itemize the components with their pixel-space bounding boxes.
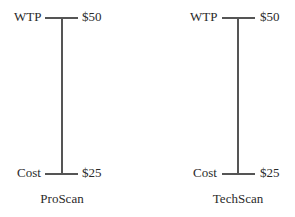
product-name: TechScan bbox=[213, 192, 263, 206]
wtp-tick bbox=[222, 17, 255, 19]
value-range-bar bbox=[237, 17, 239, 174]
wtp-label: WTP bbox=[190, 10, 217, 24]
cost-tick bbox=[45, 173, 78, 175]
cost-tick bbox=[222, 173, 255, 175]
cost-label: Cost bbox=[193, 166, 217, 180]
wtp-value: $50 bbox=[82, 10, 102, 24]
cost-value: $25 bbox=[82, 166, 102, 180]
wtp-value: $50 bbox=[260, 10, 280, 24]
cost-label: Cost bbox=[17, 166, 41, 180]
product-name: ProScan bbox=[40, 192, 83, 206]
cost-value: $25 bbox=[260, 166, 280, 180]
value-range-bar bbox=[61, 17, 63, 174]
wtp-label: WTP bbox=[14, 10, 41, 24]
